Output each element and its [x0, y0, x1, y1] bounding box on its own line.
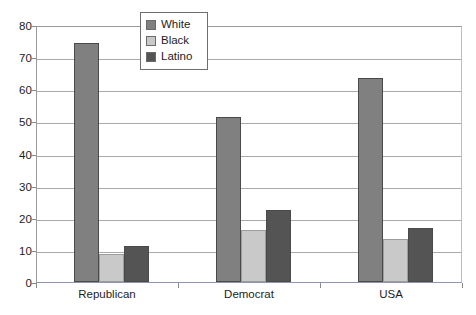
- bar-group-usa: [358, 27, 433, 282]
- bar-usa-latino: [408, 228, 433, 282]
- bar-group-democrat: [216, 27, 291, 282]
- bar-usa-black: [383, 239, 408, 282]
- x-tickmark-1: [178, 283, 179, 288]
- bar-group-republican: [74, 27, 149, 282]
- bar-republican-white: [74, 43, 99, 282]
- plot-area: [36, 26, 462, 283]
- bar-democrat-white: [216, 117, 241, 282]
- x-tick-label-democrat: Democrat: [224, 288, 274, 300]
- bar-usa-white: [358, 78, 383, 282]
- legend-item-black: Black: [146, 33, 202, 49]
- y-axis-tickmarks: [0, 26, 36, 283]
- legend-item-latino: Latino: [146, 49, 202, 65]
- x-tick-label-republican: Republican: [78, 288, 136, 300]
- x-tickmark-0: [36, 283, 37, 288]
- legend-label-black: Black: [161, 35, 189, 47]
- legend-swatch-icon-white: [146, 20, 156, 30]
- legend-label-latino: Latino: [161, 51, 192, 63]
- bar-republican-black: [99, 254, 124, 282]
- x-tickmark-3: [462, 283, 463, 288]
- legend-swatch-icon-latino: [146, 52, 156, 62]
- legend-label-white: White: [161, 19, 190, 31]
- bar-democrat-latino: [266, 210, 291, 282]
- x-tickmark-2: [320, 283, 321, 288]
- x-tick-label-usa: USA: [379, 288, 403, 300]
- legend: WhiteBlackLatino: [140, 12, 208, 70]
- bar-chart: 01020304050607080 RepublicanDemocratUSA …: [0, 0, 476, 315]
- bar-democrat-black: [241, 230, 266, 282]
- legend-item-white: White: [146, 17, 202, 33]
- bar-republican-latino: [124, 246, 149, 282]
- x-axis-labels: RepublicanDemocratUSA: [36, 288, 462, 308]
- legend-swatch-icon-black: [146, 36, 156, 46]
